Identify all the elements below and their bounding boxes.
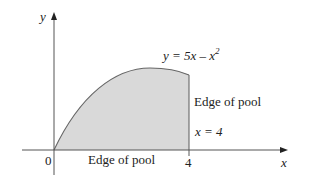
- curve-equation-label: y = 5x – x2: [161, 46, 220, 63]
- x-axis-label: x: [280, 155, 287, 170]
- shaded-region: [54, 68, 189, 150]
- right-edge-label: Edge of pool: [194, 94, 262, 109]
- bottom-edge-label: Edge of pool: [88, 152, 156, 167]
- x-tick-4-label: 4: [185, 155, 192, 170]
- x-equals-4-label: x = 4: [194, 124, 223, 139]
- equation-exponent: 2: [215, 46, 220, 56]
- origin-label: 0: [45, 153, 52, 168]
- y-axis-label: y: [38, 9, 46, 24]
- equation-main: y = 5x – x: [161, 48, 215, 63]
- y-axis-arrow-icon: [51, 12, 57, 20]
- x-axis-arrow-icon: [280, 147, 288, 153]
- pool-diagram: y x 0 4 Edge of pool Edge of pool x = 4 …: [0, 0, 309, 187]
